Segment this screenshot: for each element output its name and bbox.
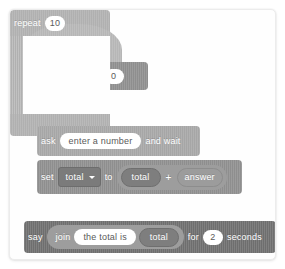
join-text-input[interactable]: the total is xyxy=(74,229,135,245)
set-label-2: set xyxy=(37,172,58,182)
repeat-count-input[interactable]: 10 xyxy=(45,16,65,31)
reporter-total-2[interactable]: total xyxy=(139,228,179,247)
seconds-input[interactable]: 2 xyxy=(203,230,223,245)
for-label: for xyxy=(184,232,203,242)
ask-label: ask xyxy=(37,136,60,146)
repeat-label: repeat xyxy=(10,18,45,28)
and-wait-label: and wait xyxy=(141,136,184,146)
repeat-mouth xyxy=(23,36,110,114)
block-say-for-seconds[interactable]: say join the total is total for 2 second… xyxy=(24,221,276,253)
ask-question-input[interactable]: enter a number xyxy=(60,133,142,149)
to-label-2: to xyxy=(101,172,117,182)
block-set-total-to-sum[interactable]: set total to total + answer xyxy=(37,160,242,194)
reporter-total[interactable]: total xyxy=(121,168,161,187)
variable-dropdown-total-2[interactable]: total xyxy=(58,167,101,187)
repeat-header: repeat 10 xyxy=(10,10,275,36)
repeat-left-arm xyxy=(10,36,23,114)
join-label: join xyxy=(52,232,75,242)
block-join-operator[interactable]: join the total is total xyxy=(47,225,184,249)
seconds-label: seconds xyxy=(223,232,266,242)
block-repeat[interactable]: repeat 10 xyxy=(10,10,110,136)
reporter-answer[interactable]: answer xyxy=(177,168,223,187)
block-addition-operator[interactable]: total + answer xyxy=(117,165,227,190)
plus-operator-label: + xyxy=(161,172,177,183)
block-ask-and-wait[interactable]: ask enter a number and wait xyxy=(37,126,200,156)
variable-dropdown-label-2: total xyxy=(66,172,84,182)
chevron-down-icon-2 xyxy=(89,176,95,179)
say-label: say xyxy=(24,232,47,242)
script-canvas: when clicked set total to 0 repeat 10 as… xyxy=(9,9,276,260)
